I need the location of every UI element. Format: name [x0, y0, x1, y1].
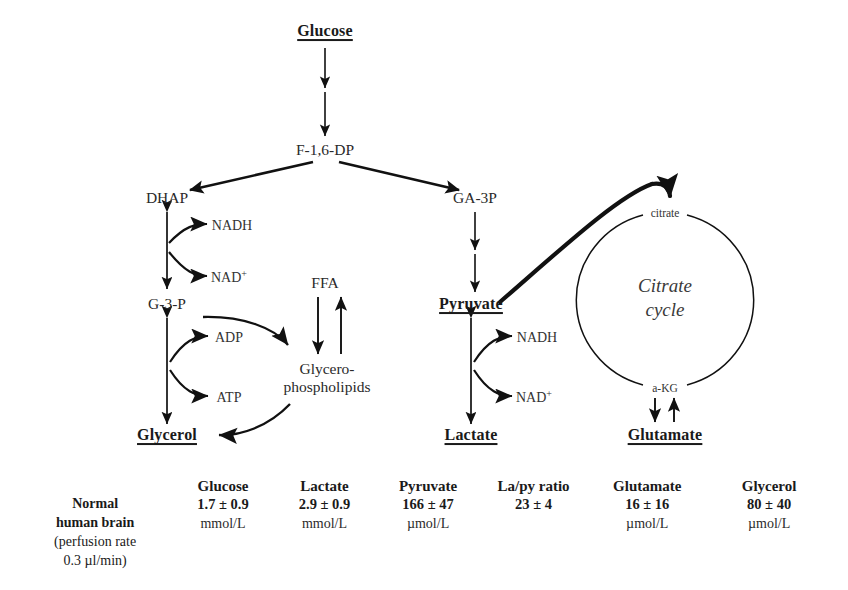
node-f16dp: F-1,6-DP [296, 141, 354, 158]
glycerophospholipids-line2: phospholipids [284, 378, 371, 395]
column-header-glycerol: Glycerol [708, 478, 830, 495]
table-cell-glycerol: 80 ± 40 µmol/L [708, 495, 830, 571]
arrow-f16dp-to-ga3p [339, 162, 459, 190]
table-header-row: Glucose Lactate Pyruvate La/py ratio Glu… [18, 478, 830, 495]
curve-nad-lower [474, 370, 512, 396]
table-cell-pyruvate: 166 ± 47 µmol/L [375, 495, 481, 571]
curve-glycerophospholipids-to-glycerol [219, 404, 290, 435]
citrate-cycle-arc-left [576, 215, 643, 385]
unit-glucose: mmol/L [172, 515, 274, 534]
table-corner-cell [18, 478, 172, 495]
node-atp: ATP [217, 390, 242, 406]
table-cell-lapy-ratio: 23 ± 4 [481, 495, 587, 571]
node-akg: a-KG [652, 382, 678, 395]
column-header-glutamate: Glutamate [586, 478, 708, 495]
node-glycerophospholipids: Glycero- phospholipids [284, 360, 371, 397]
row-label-line2: human brain [18, 514, 172, 533]
value-glucose: 1.7 ± 0.9 [172, 495, 274, 515]
node-nadh-lower: NADH [517, 330, 557, 346]
glycerophospholipids-line1: Glycero- [299, 360, 354, 377]
pathway-diagram-page: Glucose F-1,6-DP DHAP GA-3P NADH NAD+ G-… [0, 0, 848, 590]
node-nadh-upper: NADH [212, 218, 252, 234]
unit-glutamate: µmol/L [586, 515, 708, 534]
node-nad-lower: NAD+ [516, 390, 552, 406]
table-cell-glutamate: 16 ± 16 µmol/L [586, 495, 708, 571]
column-header-lapy-ratio: La/py ratio [481, 478, 587, 495]
arrow-pyruvate-to-citrate [500, 184, 652, 302]
node-lactate: Lactate [445, 426, 498, 444]
node-glycerol: Glycerol [137, 426, 197, 444]
arrow-pyruvate-to-citrate-head [652, 184, 670, 196]
node-ffa: FFA [311, 274, 338, 291]
measurements-table-grid: Glucose Lactate Pyruvate La/py ratio Glu… [18, 478, 830, 571]
value-pyruvate: 166 ± 47 [375, 495, 481, 515]
value-glutamate: 16 ± 16 [586, 495, 708, 515]
unit-glycerol: µmol/L [708, 515, 830, 534]
node-ga3p: GA-3P [453, 189, 497, 206]
node-nad-upper: NAD+ [211, 270, 247, 286]
nad-lower-text: NAD [516, 390, 546, 405]
table-cell-glucose: 1.7 ± 0.9 mmol/L [172, 495, 274, 571]
table-data-row: Normal human brain (perfusion rate 0.3 µ… [18, 495, 830, 571]
value-lapy-ratio: 23 ± 4 [481, 495, 587, 515]
value-glycerol: 80 ± 40 [708, 495, 830, 515]
nad-upper-text: NAD [211, 270, 241, 285]
citrate-cycle-line2: cycle [645, 299, 684, 320]
row-label-line3: (perfusion rate [18, 533, 172, 552]
node-adp: ADP [215, 330, 243, 346]
curve-nadh-upper [169, 224, 207, 243]
arrow-f16dp-to-dhap [190, 162, 313, 190]
value-lactate: 2.9 ± 0.9 [274, 495, 376, 515]
curve-nad-upper [169, 252, 207, 276]
column-header-lactate: Lactate [274, 478, 376, 495]
node-dhap: DHAP [146, 189, 188, 206]
row-label-line1: Normal [18, 495, 172, 514]
node-pyruvate: Pyruvate [439, 295, 503, 313]
citrate-cycle-arc-right [687, 215, 754, 385]
column-header-pyruvate: Pyruvate [375, 478, 481, 495]
measurements-table: Glucose Lactate Pyruvate La/py ratio Glu… [18, 478, 830, 573]
node-citrate-cycle: Citrate cycle [638, 274, 692, 322]
node-glutamate: Glutamate [628, 426, 703, 444]
node-glucose: Glucose [297, 22, 353, 40]
curve-atp [170, 370, 208, 396]
node-citrate: citrate [651, 207, 680, 220]
citrate-cycle-line1: Citrate [638, 275, 692, 296]
table-cell-lactate: 2.9 ± 0.9 mmol/L [274, 495, 376, 571]
row-label-line4: 0.3 µl/min) [18, 552, 172, 571]
unit-pyruvate: µmol/L [375, 515, 481, 534]
nad-upper-plus: + [241, 268, 247, 279]
unit-lactate: mmol/L [274, 515, 376, 534]
nad-lower-plus: + [546, 388, 552, 399]
curve-adp [170, 336, 208, 362]
curve-nadh-lower [474, 336, 512, 362]
column-header-glucose: Glucose [172, 478, 274, 495]
node-g3p: G-3-P [148, 295, 186, 312]
row-label-normal-human-brain: Normal human brain (perfusion rate 0.3 µ… [18, 495, 172, 571]
